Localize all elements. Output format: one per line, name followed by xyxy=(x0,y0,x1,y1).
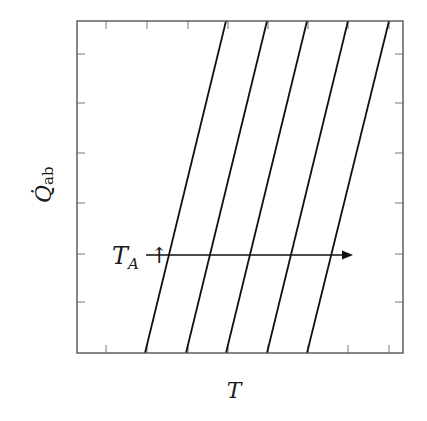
curve-line-1 xyxy=(145,21,226,353)
x-axis-label: T xyxy=(227,378,244,403)
diagram-figure: TA ↑ T Q̇ab xyxy=(0,0,427,421)
curve-line-2 xyxy=(186,21,267,353)
curve-line-3 xyxy=(226,21,307,353)
curve-line-4 xyxy=(267,21,348,353)
curve-lines xyxy=(145,21,389,353)
axis-ticks xyxy=(77,21,403,353)
curve-line-5 xyxy=(307,21,389,353)
svg-text:Q̇ab: Q̇ab xyxy=(31,166,57,203)
y-axis-label: Q̇ab xyxy=(31,166,57,203)
plot-frame xyxy=(77,21,403,353)
increase-arrow-icon: ↑ xyxy=(150,243,168,268)
arrow-head-icon xyxy=(342,251,353,260)
